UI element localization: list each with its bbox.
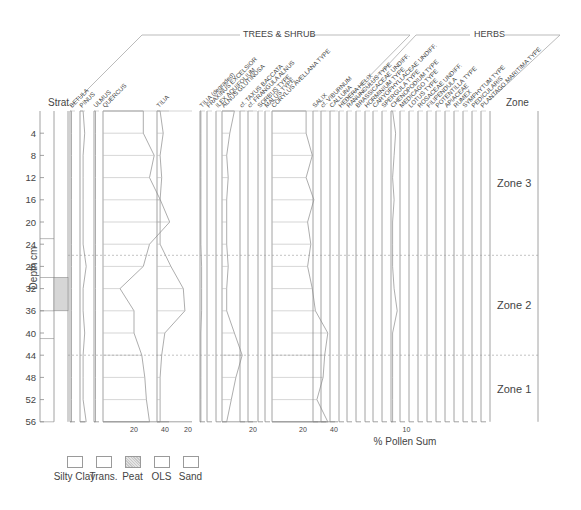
taxon-curve <box>94 111 99 422</box>
depth-tick-label: 20 <box>25 217 36 228</box>
stratigraphy-legend: Silty ClayTrans.PeatOLSSand <box>60 456 205 482</box>
x-tick-label: 20 <box>299 426 307 433</box>
taxon-curve <box>339 111 344 422</box>
depth-tick-label: 56 <box>25 416 36 427</box>
legend-label: Trans. <box>90 471 118 482</box>
taxon-curve <box>80 111 86 422</box>
taxon-curve <box>200 111 205 422</box>
x-tick-label: 40 <box>161 426 169 433</box>
taxon-curve <box>216 111 221 422</box>
legend-swatch <box>125 456 141 468</box>
taxon-curve <box>409 111 414 422</box>
pollen-curves: 20402020204010 <box>70 111 486 433</box>
strat-label: Strat <box>48 97 69 108</box>
y-axis-label: Depth cm <box>28 247 39 290</box>
taxon-curve <box>481 111 486 422</box>
taxon-curve <box>427 111 432 422</box>
taxon-curve <box>418 111 423 422</box>
taxon-curve <box>472 111 477 422</box>
legend-item: Peat <box>118 456 147 482</box>
x-tick-label: 20 <box>249 426 257 433</box>
taxa-labels: BETULAPINUSULMUSQUERCUSTILIATILIA (degra… <box>68 41 542 108</box>
legend-item: Sand <box>176 456 205 482</box>
pollen-diagram: BETULAPINUSULMUSQUERCUSTILIATILIA (degra… <box>0 0 581 450</box>
taxon-curve <box>70 111 75 422</box>
legend-label: Sand <box>179 471 202 482</box>
taxon-curve <box>382 111 387 422</box>
depth-tick-label: 4 <box>31 128 36 139</box>
legend-swatch <box>154 456 170 468</box>
taxon-label: TILIA <box>155 93 171 109</box>
taxon-curve: 20 <box>157 111 192 433</box>
taxon-curve <box>373 111 378 422</box>
x-tick-label: 10 <box>403 426 411 433</box>
strat-column <box>40 111 68 422</box>
group-label-trees: TREES & SHRUB <box>243 29 316 39</box>
x-tick-label: 20 <box>184 426 192 433</box>
taxon-curve <box>445 111 450 422</box>
legend-item: Trans. <box>89 456 118 482</box>
depth-tick-label: 48 <box>25 372 36 383</box>
taxon-curve: 20 <box>222 111 257 433</box>
legend-swatch <box>96 456 112 468</box>
taxon-curve <box>347 111 352 422</box>
taxon-curve <box>356 111 361 422</box>
taxon-curve <box>258 111 263 422</box>
depth-tick-label: 8 <box>31 150 36 161</box>
taxon-curve <box>248 111 253 422</box>
taxon-curve: 2040 <box>272 111 338 433</box>
legend-swatch <box>183 456 199 468</box>
legend-label: Peat <box>122 471 143 482</box>
depth-tick-label: 12 <box>25 172 36 183</box>
x-axis-label: % Pollen Sum <box>374 436 437 447</box>
legend-swatch <box>67 456 83 468</box>
x-tick-label: 20 <box>130 426 138 433</box>
legend-item: Silty Clay <box>60 456 89 482</box>
taxon-curve: 2040 <box>103 111 170 433</box>
zone-name: Zone 2 <box>497 299 531 311</box>
depth-tick-label: 40 <box>25 328 36 339</box>
zone-name: Zone 1 <box>497 383 531 395</box>
taxon-curve <box>313 111 318 422</box>
taxon-curve <box>207 111 212 422</box>
depth-tick-label: 44 <box>25 350 36 361</box>
taxon-curve <box>365 111 370 422</box>
taxon-curve <box>463 111 468 422</box>
zone-label: Zone <box>506 97 529 108</box>
depth-tick-label: 16 <box>25 194 36 205</box>
depth-tick-label: 36 <box>25 305 36 316</box>
legend-label: OLS <box>151 471 171 482</box>
taxon-curve <box>400 111 405 422</box>
x-tick-label: 40 <box>330 426 338 433</box>
taxon-curve <box>265 111 270 422</box>
legend-item: OLS <box>147 456 176 482</box>
taxon-curve: 10 <box>391 111 410 433</box>
depth-tick-label: 52 <box>25 394 36 405</box>
taxon-curve <box>454 111 459 422</box>
taxon-curve <box>436 111 441 422</box>
zone-name: Zone 3 <box>497 177 531 189</box>
taxon-curve <box>330 111 335 422</box>
taxon-curve <box>240 111 245 422</box>
group-label-herbs: HERBS <box>474 29 505 39</box>
